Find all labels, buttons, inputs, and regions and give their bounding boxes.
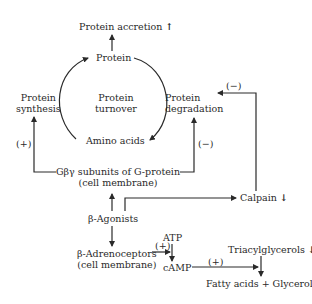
node-camp: cAMP — [163, 262, 191, 273]
protein-turnover-line2: turnover — [95, 103, 137, 114]
protein-synthesis-line2: synthesis — [16, 103, 61, 114]
adrenoceptors-line2: (cell membrane) — [77, 259, 157, 270]
trend-down-icon: ↓ — [280, 192, 288, 203]
triacylglycerols-label: Triacylglycerols — [228, 244, 305, 255]
arrow-gby-to-degradation — [180, 118, 194, 172]
node-protein-synthesis: Protein synthesis — [16, 92, 61, 114]
arrow-gby-to-synthesis — [34, 117, 56, 172]
effect-camp-lipolysis: (+) — [208, 256, 223, 267]
node-fatty-acids-glycerol: Fatty acids + Glycerol — [206, 278, 312, 289]
protein-synthesis-line1: Protein — [16, 92, 61, 103]
effect-calpain-degradation: (−) — [226, 80, 241, 91]
arc-synthesis — [59, 58, 88, 139]
gby-line2: (cell membrane) — [56, 177, 180, 188]
node-protein-degradation: Protein degradation — [165, 92, 223, 114]
protein-accretion-label: Protein accretion — [79, 21, 162, 32]
protein-degradation-line2: degradation — [165, 103, 223, 114]
effect-adrenoceptors-camp: (+) — [155, 240, 170, 251]
arrow-agonists-to-calpain — [125, 198, 236, 211]
trend-down-icon: ↓ — [308, 244, 312, 255]
effect-gby-degradation: (−) — [198, 138, 213, 149]
arc-degradation — [134, 58, 167, 140]
node-beta-adrenoceptors: β-Adrenoceptors (cell membrane) — [77, 248, 157, 270]
node-protein-turnover: Protein turnover — [95, 92, 137, 114]
calpain-label: Calpain — [240, 192, 277, 203]
node-beta-agonists: β-Agonists — [88, 213, 138, 224]
effect-gby-synthesis: (+) — [16, 138, 31, 149]
node-amino-acids: Amino acids — [86, 135, 145, 146]
node-protein-accretion: Protein accretion ↑ — [79, 21, 173, 32]
node-protein: Protein — [96, 52, 131, 63]
trend-up-icon: ↑ — [165, 21, 173, 32]
protein-degradation-line1: Protein — [165, 92, 223, 103]
node-calpain: Calpain ↓ — [240, 192, 288, 203]
node-gby-subunits: Gβγ subunits of G-protein (cell membrane… — [56, 166, 180, 188]
gby-line1: Gβγ subunits of G-protein — [56, 166, 180, 177]
protein-turnover-line1: Protein — [95, 92, 137, 103]
node-triacylglycerols: Triacylglycerols ↓ — [228, 244, 312, 255]
arrow-calpain-to-degradation — [218, 93, 256, 191]
adrenoceptors-line1: β-Adrenoceptors — [77, 248, 157, 259]
